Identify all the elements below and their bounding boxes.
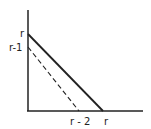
- y-label-r: r: [20, 28, 25, 39]
- diagram: r r-1 r - 2 r: [0, 0, 151, 129]
- x-label-r: r: [104, 116, 109, 127]
- y-label-r-minus-1: r-1: [9, 42, 22, 53]
- x-label-r-minus-2: r - 2: [70, 116, 90, 127]
- solid-line: [28, 34, 103, 111]
